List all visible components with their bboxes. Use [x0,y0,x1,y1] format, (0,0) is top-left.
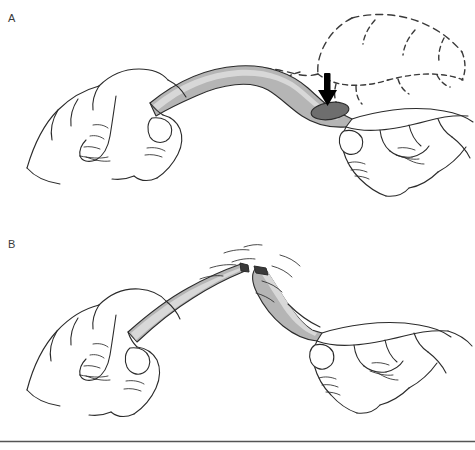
right-hand-panel-b [310,323,472,414]
tube-segment-right [253,266,322,341]
left-hand-panel-a [27,69,186,184]
illustration-canvas: .ln { fill:none; stroke:#2b2b2b; stroke-… [0,0,475,450]
panel-label-b: B [8,238,16,250]
figure-container: .ln { fill:none; stroke:#2b2b2b; stroke-… [0,0,475,450]
panel-b-artwork [27,245,472,417]
right-hand-panel-a [339,109,473,197]
tube-left-broken-tip [240,263,249,272]
panel-label-a: A [8,12,16,24]
ghost-hand-outline-dashed [228,15,465,104]
motion-lines [200,245,300,302]
panel-a-artwork [27,15,473,197]
tube-segment-left [128,263,249,342]
